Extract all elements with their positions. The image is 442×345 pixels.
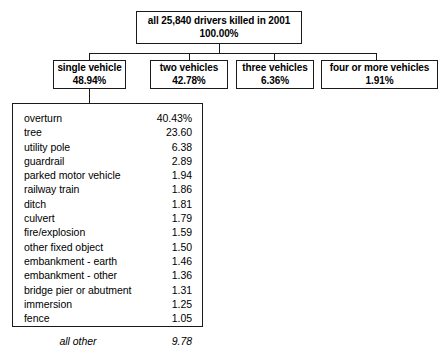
single-vehicle-detail-box: overturn 40.43% tree 23.60 utility pole … [12, 103, 203, 327]
detail-row: embankment - earth 1.46 [24, 254, 192, 268]
detail-row-label: embankment - earth [24, 254, 146, 268]
detail-row-value: 1.81 [146, 197, 192, 211]
node-four-or-more-vehicles: four or more vehicles 1.91% [321, 60, 438, 89]
detail-row: fire/explosion 1.59 [24, 225, 192, 239]
node-all-drivers: all 25,840 drivers killed in 2001 100.00… [136, 11, 302, 44]
detail-row: ditch 1.81 [24, 197, 192, 211]
node-three-vehicles: three vehicles 6.36% [236, 60, 314, 89]
detail-row-value: 1.25 [146, 297, 192, 311]
detail-row: guardrail 2.89 [24, 154, 192, 168]
detail-row-label: tree [24, 125, 146, 139]
node-three-vehicles-percent: 6.36% [261, 75, 289, 88]
detail-row-value: 1.05 [146, 311, 192, 325]
detail-row-value: 1.50 [146, 240, 192, 254]
detail-row-value: 1.36 [146, 268, 192, 282]
node-single-vehicle-label: single vehicle [57, 62, 121, 75]
detail-row: other fixed object 1.50 [24, 240, 192, 254]
detail-row: embankment - other 1.36 [24, 268, 192, 282]
node-two-vehicles: two vehicles 42.78% [150, 60, 228, 89]
detail-row-label: all other [24, 334, 146, 345]
node-four-or-more-vehicles-label: four or more vehicles [330, 62, 430, 75]
detail-row: immersion 1.25 [24, 297, 192, 311]
connector-single-vehicle-down [89, 89, 90, 104]
detail-row-value: 23.60 [146, 125, 192, 139]
detail-row-label: parked motor vehicle [24, 168, 146, 182]
node-two-vehicles-percent: 42.78% [172, 75, 205, 88]
detail-row: fence 1.05 [24, 311, 192, 325]
detail-row-label: immersion [24, 297, 146, 311]
detail-row: tree 23.60 [24, 125, 192, 139]
detail-row: parked motor vehicle 1.94 [24, 168, 192, 182]
node-four-or-more-vehicles-percent: 1.91% [366, 75, 394, 88]
fatality-breakdown-diagram: all 25,840 drivers killed in 2001 100.00… [0, 0, 442, 345]
detail-row-label: guardrail [24, 154, 146, 168]
detail-row-value: 1.79 [146, 211, 192, 225]
detail-row: railway train 1.86 [24, 182, 192, 196]
detail-row-label: bridge pier or abutment [24, 283, 146, 297]
detail-row-label: utility pole [24, 140, 146, 154]
node-single-vehicle: single vehicle 48.94% [53, 60, 126, 89]
connector-horizontal-bus [89, 53, 377, 54]
detail-row-label: culvert [24, 211, 146, 225]
detail-row-value: 6.38 [146, 140, 192, 154]
detail-row-label: other fixed object [24, 240, 146, 254]
detail-row-label: ditch [24, 197, 146, 211]
node-all-drivers-label: all 25,840 drivers killed in 2001 [148, 15, 290, 28]
detail-row-label: fence [24, 311, 146, 325]
detail-row-label: embankment - other [24, 268, 146, 282]
detail-row: culvert 1.79 [24, 211, 192, 225]
node-two-vehicles-label: two vehicles [160, 62, 218, 75]
detail-row-value: 1.94 [146, 168, 192, 182]
detail-row-value: 1.31 [146, 283, 192, 297]
detail-row-value: 1.86 [146, 182, 192, 196]
detail-row: utility pole 6.38 [24, 140, 192, 154]
detail-list: overturn 40.43% tree 23.60 utility pole … [24, 111, 192, 345]
detail-row-label: fire/explosion [24, 225, 146, 239]
detail-row-value: 2.89 [146, 154, 192, 168]
node-all-drivers-percent: 100.00% [200, 28, 239, 41]
detail-row-value: 1.46 [146, 254, 192, 268]
detail-row-label: railway train [24, 182, 146, 196]
detail-row-label: overturn [24, 111, 146, 125]
detail-row-value: 1.59 [146, 225, 192, 239]
node-three-vehicles-label: three vehicles [242, 62, 307, 75]
detail-row-all-other: all other 9.78 [24, 334, 192, 345]
detail-row: overturn 40.43% [24, 111, 192, 125]
detail-row-value: 40.43% [146, 111, 192, 125]
detail-row-value: 9.78 [146, 334, 192, 345]
connector-root-down [219, 44, 220, 53]
node-single-vehicle-percent: 48.94% [73, 75, 106, 88]
detail-row: bridge pier or abutment 1.31 [24, 283, 192, 297]
